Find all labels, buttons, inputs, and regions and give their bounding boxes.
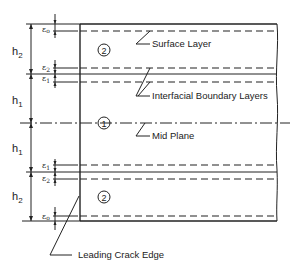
callouts: Surface Layer Interfacial Boundary Layer… — [50, 31, 268, 260]
interfacial-layers-label: Interfacial Boundary Layers — [152, 90, 268, 101]
eps1-bottom-label: ε1 — [42, 161, 50, 171]
h2-bottom-label: h2 — [12, 190, 23, 205]
h1-top-label: h1 — [12, 94, 23, 109]
epsilon-dimension-lines — [54, 14, 57, 230]
eps1-top-label: ε1 — [42, 74, 50, 84]
layer-lines — [20, 31, 290, 216]
mid-plane-leader — [136, 123, 150, 136]
eps2-bottom-label: ε2 — [42, 174, 50, 184]
mid-plane-label: Mid Plane — [152, 130, 194, 141]
surface-layer-label: Surface Layer — [152, 38, 211, 49]
region-1-number: 1 — [101, 119, 106, 129]
laminate-crack-diagram: h2 h1 h1 h2 εo ε2 ε1 ε1 ε2 εo 2 1 2 Surf… — [0, 0, 296, 273]
region-2-bottom-number: 2 — [101, 193, 106, 203]
eps0-top-label: εo — [42, 25, 50, 34]
leading-crack-edge-leader — [50, 196, 79, 255]
h-labels: h2 h1 h1 h2 — [12, 45, 23, 205]
eps0-bottom-label: εo — [42, 212, 50, 221]
h2-top-label: h2 — [12, 45, 23, 60]
eps2-top-label: ε2 — [42, 63, 50, 73]
leading-crack-edge-label: Leading Crack Edge — [78, 249, 164, 260]
h1-bottom-label: h1 — [12, 142, 23, 157]
region-2-top-number: 2 — [101, 46, 106, 56]
surface-layer-leader — [136, 31, 150, 44]
